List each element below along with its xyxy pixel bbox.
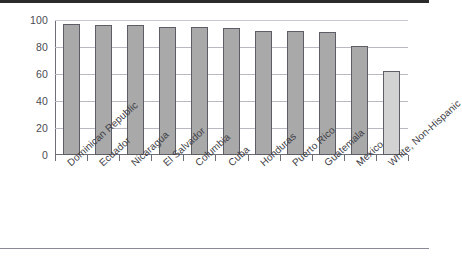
x-tick	[87, 155, 88, 161]
bar	[95, 25, 112, 155]
plot-area	[55, 20, 408, 155]
x-tick	[183, 155, 184, 161]
bar	[127, 25, 144, 155]
y-tick-label-40: 40	[4, 96, 48, 107]
x-tick	[344, 155, 345, 161]
x-tick	[215, 155, 216, 161]
bar	[63, 24, 80, 155]
y-tick-label-100: 100	[4, 15, 48, 26]
y-tick-label-80: 80	[4, 42, 48, 53]
x-tick	[119, 155, 120, 161]
x-tick	[248, 155, 249, 161]
bar	[223, 28, 240, 155]
bar	[351, 46, 368, 155]
y-tick-label-60: 60	[4, 69, 48, 80]
bar	[319, 32, 336, 155]
y-tick-label-20: 20	[4, 123, 48, 134]
bar	[159, 27, 176, 155]
bar	[191, 27, 208, 155]
gridline-100	[55, 20, 408, 21]
y-tick-label-0: 0	[4, 150, 48, 161]
x-tick	[55, 155, 56, 161]
x-tick	[408, 155, 409, 161]
bar	[287, 31, 304, 155]
x-tick	[280, 155, 281, 161]
x-tick	[151, 155, 152, 161]
bar	[383, 71, 400, 155]
top-divider	[0, 0, 429, 3]
x-tick	[312, 155, 313, 161]
bar	[255, 31, 272, 155]
bottom-divider	[0, 248, 429, 249]
x-tick	[376, 155, 377, 161]
